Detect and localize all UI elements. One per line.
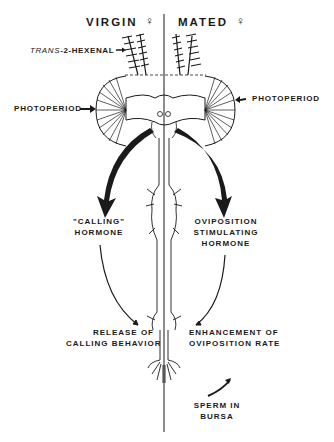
hexenal-label: TRANS-2-HEXENAL xyxy=(30,45,114,56)
ovip-hormone-label: OVIPOSITION STIMULATING HORMONE xyxy=(186,216,266,249)
virgin-female-symbol: ♀ xyxy=(145,14,156,28)
photoperiod-right-label: PHOTOPERIOD xyxy=(252,93,320,104)
right-antenna xyxy=(172,34,201,75)
right-compound-eye xyxy=(205,76,235,146)
calling-behavior-arrow xyxy=(100,245,138,325)
photoperiod-left-label: PHOTOPERIOD xyxy=(14,103,82,114)
diagram-canvas xyxy=(0,0,334,442)
mated-female-symbol: ♀ xyxy=(236,14,247,28)
ovip-hormone-arrow xyxy=(174,128,232,218)
mated-title: MATED xyxy=(178,16,228,28)
enhancement-oviposition-label: ENHANCEMENT OF OVIPOSITION RATE xyxy=(189,327,280,349)
calling-hormone-arrow xyxy=(97,128,154,218)
brain xyxy=(126,95,205,125)
left-compound-eye xyxy=(96,76,126,146)
virgin-title: VIRGIN xyxy=(86,16,138,28)
photoperiod-left-arrow xyxy=(80,105,96,113)
oviposition-rate-arrow xyxy=(196,255,225,325)
release-calling-label: RELEASE OF CALLING BEHAVIOR xyxy=(66,327,154,349)
calling-hormone-label: "CALLING" HORMONE xyxy=(64,216,134,238)
left-antenna xyxy=(122,34,149,75)
photoperiod-right-arrow xyxy=(235,96,246,103)
sperm-bursa-label: SPERM IN BURSA xyxy=(190,400,244,422)
sperm-arrow xyxy=(208,380,230,396)
